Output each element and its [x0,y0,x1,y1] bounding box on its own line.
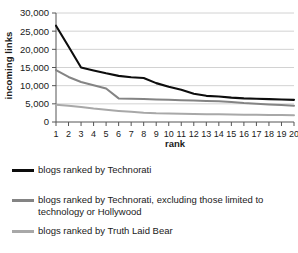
legend-label: blogs ranked by Truth Laid Bear [38,225,173,237]
svg-text:5,000: 5,000 [25,98,49,109]
svg-text:9: 9 [154,129,159,139]
svg-text:5: 5 [104,129,109,139]
line-chart-svg: 05,00010,00015,00020,00025,00030,0001234… [0,0,298,140]
svg-text:3: 3 [79,129,84,139]
svg-text:12: 12 [189,129,199,139]
legend-swatch-line-icon [12,169,34,172]
svg-text:17: 17 [251,129,261,139]
svg-text:4: 4 [91,129,96,139]
svg-text:16: 16 [239,129,249,139]
svg-text:2: 2 [66,129,71,139]
legend-label: blogs ranked by Technorati, excluding th… [38,194,290,218]
chart-plot-area: incoming links 05,00010,00015,00020,0002… [0,0,298,155]
svg-text:15: 15 [226,129,236,139]
svg-text:14: 14 [214,129,224,139]
svg-text:11: 11 [177,129,186,139]
svg-text:15,000: 15,000 [20,62,49,73]
svg-text:0: 0 [44,116,49,127]
svg-text:1: 1 [53,129,58,139]
legend-swatch-line-icon [12,230,34,233]
svg-text:10: 10 [164,129,174,139]
svg-text:13: 13 [201,129,211,139]
chart-figure: incoming links 05,00010,00015,00020,0002… [0,0,298,253]
svg-text:18: 18 [264,129,274,139]
legend-item: blogs ranked by Truth Laid Bear [12,225,296,237]
svg-text:30,000: 30,000 [20,7,49,18]
svg-text:6: 6 [116,129,121,139]
svg-text:10,000: 10,000 [20,80,49,91]
svg-text:7: 7 [129,129,134,139]
legend-item: blogs ranked by Technorati [12,164,296,176]
legend-label: blogs ranked by Technorati [38,164,151,176]
x-axis-title: rank [55,138,295,149]
svg-text:20,000: 20,000 [20,44,49,55]
chart-legend: blogs ranked by Technorati blogs ranked … [0,158,298,253]
svg-text:25,000: 25,000 [20,26,49,37]
legend-item: blogs ranked by Technorati, excluding th… [12,194,296,218]
legend-swatch-line-icon [12,199,34,202]
svg-text:19: 19 [276,129,286,139]
svg-text:20: 20 [289,129,298,139]
svg-text:8: 8 [141,129,146,139]
